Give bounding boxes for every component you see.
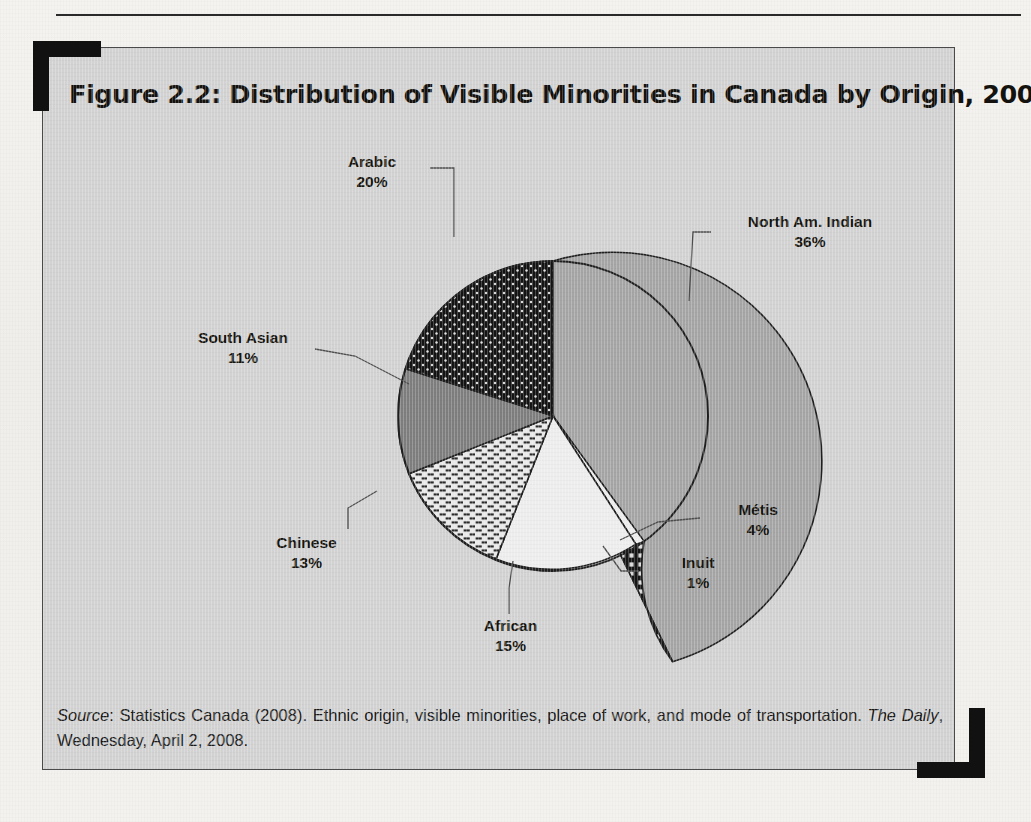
leader-line-south-asian [315,349,409,384]
figure-container: Figure 2.2: Distribution of Visible Mino… [42,47,955,770]
pie-label-arabic: Arabic 20% [307,152,437,192]
pie-slices [398,252,822,661]
leader-line-chinese [348,491,377,529]
pie-label-arabic-value: 20% [307,172,437,192]
pie-chart-svg [43,48,956,688]
pie-chart: Arabic 20% North Am. Indian 36% South As… [43,48,956,688]
corner-bracket-top-left-vertical [33,41,49,111]
corner-bracket-bottom-right-vertical [969,708,985,778]
pie-label-african: African 15% [443,616,578,656]
pie-label-inuit-value: 1% [643,573,753,593]
pie-label-african-name: African [443,616,578,636]
pie-label-inuit: Inuit 1% [643,553,753,593]
pie-label-south-asian-name: South Asian [168,328,318,348]
pie-label-chinese-name: Chinese [239,533,374,553]
corner-bracket-bottom-right [917,708,985,778]
page-top-rule [56,14,1021,16]
pie-label-metis-value: 4% [703,520,813,540]
pie-label-north-am-indian-value: 36% [715,232,905,252]
pie-slice-north-am-indian[interactable] [553,252,822,661]
source-label: Source [57,706,109,724]
pie-label-chinese: Chinese 13% [239,533,374,573]
pie-label-north-am-indian-name: North Am. Indian [715,212,905,232]
pie-label-arabic-name: Arabic [307,152,437,172]
pie-label-north-am-indian: North Am. Indian 36% [715,212,905,252]
figure-source-note: Source: Statistics Canada (2008). Ethnic… [57,703,943,753]
pie-label-african-value: 15% [443,636,578,656]
source-text-before: Statistics Canada (2008). Ethnic origin,… [114,706,868,724]
pie-label-south-asian: South Asian 11% [168,328,318,368]
pie-label-inuit-name: Inuit [643,553,753,573]
pie-label-chinese-value: 13% [239,553,374,573]
pie-label-metis: Métis 4% [703,500,813,540]
corner-bracket-top-left [33,41,101,111]
pie-label-metis-name: Métis [703,500,813,520]
pie-label-south-asian-value: 11% [168,348,318,368]
leader-line-african [509,561,513,614]
